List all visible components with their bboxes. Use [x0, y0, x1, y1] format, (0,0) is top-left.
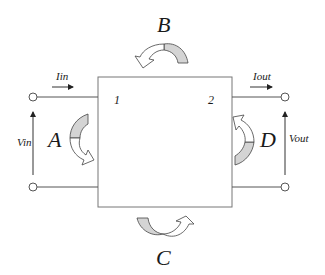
output-current-label: Iout	[252, 70, 272, 82]
port1-label: 1	[114, 93, 120, 107]
input-voltage-label: Vin	[17, 136, 32, 148]
curved-arrow-b-icon	[135, 44, 188, 68]
parameter-c-label: C	[156, 245, 171, 270]
parameter-d-label: D	[259, 127, 276, 152]
input-terminal-bottom	[29, 183, 37, 191]
parameter-a-label: A	[46, 127, 62, 152]
two-port-diagram: Iin Iout Vin Vout 1 2 A B C D	[0, 0, 325, 275]
curved-arrow-a-icon	[70, 114, 94, 165]
port2-label: 2	[208, 93, 214, 107]
output-voltage-label: Vout	[289, 132, 310, 144]
output-terminal-bottom	[281, 183, 289, 191]
input-current-label: Iin	[55, 70, 69, 82]
output-terminal-top	[281, 93, 289, 101]
parameter-b-label: B	[157, 12, 170, 37]
input-terminal-top	[29, 93, 37, 101]
curved-arrow-c-icon	[137, 216, 194, 236]
curved-arrow-d-icon	[233, 115, 254, 165]
